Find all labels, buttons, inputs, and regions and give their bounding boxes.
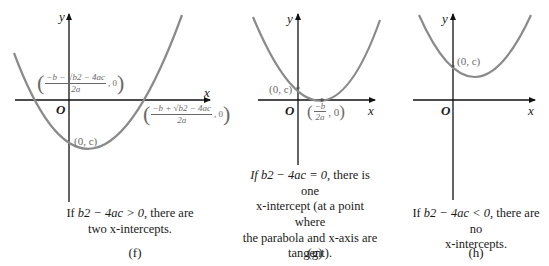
caption-f: If b2 − 4ac > 0, there are two x-interce… <box>60 206 200 237</box>
parabola-no-roots <box>419 15 531 77</box>
x-axis-label: x <box>204 86 210 99</box>
caption-g-line3: the parabola and x-axis are <box>240 231 380 247</box>
y-intercept-point <box>296 86 299 89</box>
vertex-tail: , 0 <box>328 106 339 118</box>
origin-label: O <box>285 104 294 117</box>
vertex-denominator: 2a <box>315 112 324 122</box>
left-root-denominator: 2a <box>71 84 80 94</box>
left-root-numerator: −b − √b2 − 4ac <box>45 72 106 83</box>
caption-h-line1: If b2 − 4ac < 0, there are no <box>406 206 546 237</box>
vertex-label: ( −b 2a , 0 ) <box>307 101 345 123</box>
panel-tag-g: (g) <box>300 245 330 261</box>
caption-f-line2: two x-intercepts. <box>60 222 200 238</box>
y-intercept-label: (0, c) <box>269 84 292 95</box>
right-root-numerator: −b + √b2 − 4ac <box>151 103 212 114</box>
panel-tag-f: (f) <box>120 245 150 261</box>
caption-f-line1: If b2 − 4ac > 0, there are <box>60 206 200 222</box>
y-axis-label: y <box>59 10 65 23</box>
caption-g-line2: x-intercept (at a point where <box>240 199 380 230</box>
right-root-denominator: 2a <box>177 115 186 125</box>
panel-tag-h: (h) <box>461 245 491 261</box>
y-intercept-label: (0, c) <box>457 56 480 67</box>
panel-h-graph <box>413 14 535 200</box>
left-root-tail: , 0 <box>108 78 117 88</box>
x-axis-label: x <box>528 104 534 117</box>
left-root-label: ( −b − √b2 − 4ac 2a , 0 ) <box>37 72 124 94</box>
y-axis-label: y <box>442 12 448 25</box>
y-intercept-point <box>451 64 454 67</box>
right-root-label: ( −b + √b2 − 4ac 2a , 0 ) <box>143 103 230 125</box>
vertex-numerator: −b <box>314 101 327 112</box>
y-axis-label: y <box>287 12 293 25</box>
right-root-tail: , 0 <box>214 109 223 119</box>
y-intercept-label: (0, c) <box>74 136 97 147</box>
x-axis-label: x <box>368 104 374 117</box>
caption-g-line1: If b2 − 4ac = 0, there is one <box>240 168 380 199</box>
origin-label: O <box>441 104 450 117</box>
origin-label: O <box>56 103 65 116</box>
